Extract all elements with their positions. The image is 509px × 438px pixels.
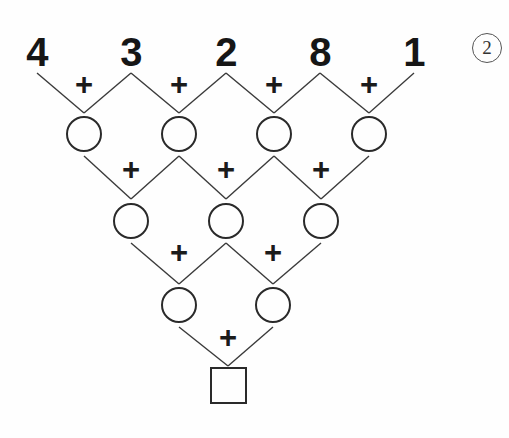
plus-operator-r0-c1: + (164, 70, 194, 100)
problem-number-marker: 2 (472, 33, 502, 63)
given-digit-4: 1 (394, 32, 434, 72)
plus-operator-r1-c1: + (211, 155, 241, 185)
given-digit-2: 2 (206, 32, 246, 72)
given-digit-3: 8 (300, 32, 340, 72)
given-digit-1: 3 (111, 32, 151, 72)
answer-circle-r1-c3[interactable] (351, 116, 387, 152)
answer-circle-r3-c1[interactable] (255, 287, 291, 323)
plus-operator-r2-c1: + (258, 238, 288, 268)
plus-operator-r0-c0: + (69, 70, 99, 100)
answer-circle-r1-c1[interactable] (161, 116, 197, 152)
answer-circle-r3-c0[interactable] (161, 287, 197, 323)
given-digit-0: 4 (17, 32, 57, 72)
answer-circle-r1-c2[interactable] (256, 116, 292, 152)
plus-operator-r1-c0: + (116, 155, 146, 185)
answer-square-final[interactable] (210, 367, 247, 404)
plus-operator-r0-c2: + (259, 70, 289, 100)
plus-operator-r1-c2: + (306, 155, 336, 185)
answer-circle-r2-c1[interactable] (208, 203, 244, 239)
answer-circle-r2-c2[interactable] (303, 203, 339, 239)
plus-operator-r2-c0: + (164, 238, 194, 268)
answer-circle-r2-c0[interactable] (113, 203, 149, 239)
plus-operator-r3-c0: + (213, 323, 243, 353)
worksheet-canvas: 4 3 2 8 1 + + + + + + + + + + 2 (0, 0, 509, 438)
plus-operator-r0-c3: + (354, 70, 384, 100)
answer-circle-r1-c0[interactable] (66, 116, 102, 152)
